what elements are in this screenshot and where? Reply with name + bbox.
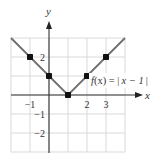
x-axis-label: x <box>144 89 150 101</box>
y-tick-label: 2 <box>40 52 45 63</box>
annotation-abs-open: | <box>117 75 119 86</box>
data-point <box>103 54 109 60</box>
data-point <box>65 92 71 98</box>
x-axis-arrow-icon <box>135 92 143 98</box>
data-point <box>46 73 52 79</box>
annotation-inner: x − 1 <box>120 75 143 86</box>
x-tick-label: 2 <box>85 99 90 110</box>
function-annotation: f(x) = |x − 1| <box>89 73 148 88</box>
x-tick-label: 3 <box>104 99 109 110</box>
annotation-abs-close: | <box>146 75 148 86</box>
annotation-arg: (x) = <box>94 75 117 87</box>
data-point <box>27 54 33 60</box>
chart: x y −1232−1−2 f(x) = |x − 1| <box>0 0 158 164</box>
y-axis-arrow-icon <box>46 21 52 29</box>
annotation-text: f(x) = |x − 1| <box>91 75 148 87</box>
y-axis-label: y <box>45 5 51 17</box>
y-tick-label: −1 <box>34 109 45 120</box>
y-tick-label: −2 <box>34 128 45 139</box>
